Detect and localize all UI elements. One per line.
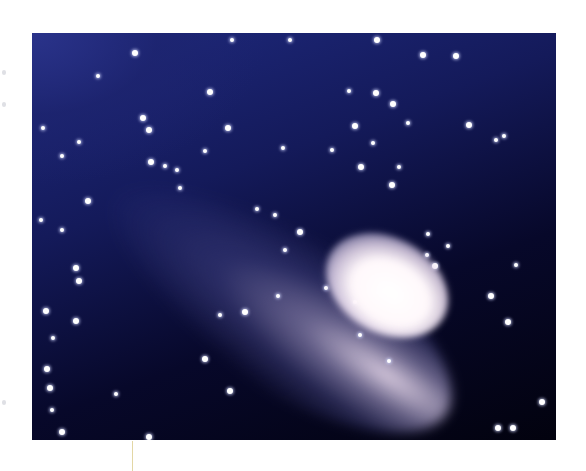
star <box>146 434 152 440</box>
star <box>330 148 334 152</box>
star <box>495 425 501 431</box>
star <box>273 213 277 217</box>
star <box>218 313 222 317</box>
star <box>203 149 207 153</box>
star <box>371 141 375 145</box>
star <box>114 392 118 396</box>
star <box>132 50 138 56</box>
star <box>446 244 450 248</box>
star <box>50 408 54 412</box>
star <box>373 90 379 96</box>
star <box>41 126 45 130</box>
star <box>163 164 167 168</box>
star <box>453 53 459 59</box>
star <box>276 294 280 298</box>
star <box>488 293 494 299</box>
star <box>397 165 401 169</box>
star <box>466 122 472 128</box>
star <box>59 429 65 435</box>
star <box>297 229 303 235</box>
star <box>242 309 248 315</box>
star <box>77 140 81 144</box>
margin-text-fragment <box>2 70 6 75</box>
star <box>510 425 516 431</box>
star <box>76 278 82 284</box>
star <box>283 248 287 252</box>
star <box>389 182 395 188</box>
star <box>406 121 410 125</box>
star <box>146 127 152 133</box>
star <box>426 232 430 236</box>
caption-leader-line <box>132 441 133 471</box>
star <box>358 164 364 170</box>
star <box>60 154 64 158</box>
star <box>178 186 182 190</box>
star <box>539 399 545 405</box>
star <box>387 359 391 363</box>
margin-text-fragment <box>2 400 6 405</box>
star <box>358 333 362 337</box>
star <box>227 388 233 394</box>
comet-photo <box>32 33 556 440</box>
star <box>225 125 231 131</box>
star <box>505 319 511 325</box>
star <box>73 318 79 324</box>
star <box>73 265 79 271</box>
star <box>281 146 285 150</box>
star <box>44 366 50 372</box>
star <box>207 89 213 95</box>
star <box>420 52 426 58</box>
star <box>175 168 179 172</box>
star <box>288 38 292 42</box>
star <box>352 123 358 129</box>
star <box>347 89 351 93</box>
star <box>47 385 53 391</box>
star <box>43 308 49 314</box>
star <box>374 37 380 43</box>
star <box>202 356 208 362</box>
star <box>96 74 100 78</box>
star <box>494 138 498 142</box>
margin-text-fragment <box>2 102 6 107</box>
star <box>502 134 506 138</box>
star <box>390 101 396 107</box>
star <box>60 228 64 232</box>
star <box>51 336 55 340</box>
star <box>148 159 154 165</box>
star <box>140 115 146 121</box>
star <box>39 218 43 222</box>
star <box>255 207 259 211</box>
star <box>85 198 91 204</box>
star <box>230 38 234 42</box>
star <box>514 263 518 267</box>
